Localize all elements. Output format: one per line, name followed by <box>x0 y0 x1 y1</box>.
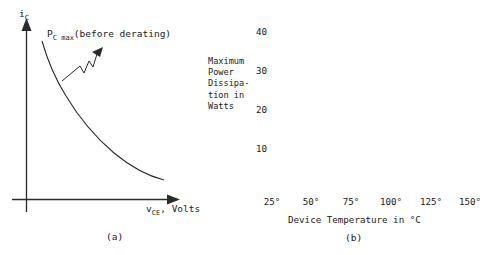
panel-a-annotation-sub: C max <box>53 33 74 42</box>
panel-b-x-axis-label: Device Temperature in °C <box>288 214 421 225</box>
panel-b-y-axis-label: MaximumPowerDissipa-tion inWatts <box>208 56 249 112</box>
panel-a-annotation-pointer-line <box>62 54 97 81</box>
panel-b-y-axis-label-line-5: Watts <box>208 101 249 112</box>
panel-a-x-axis-label-sub: CE <box>152 208 160 217</box>
panel-b-y-tick-label-40: 40 <box>249 26 267 37</box>
panel-a-x-axis-label: vCE, Volts <box>146 203 200 217</box>
panel-b-x-tick-label-150: 150° <box>453 196 487 207</box>
panel-a-collector-characteristic: iC vCE, Volts PC max(before derating) (a… <box>0 0 251 255</box>
panel-a-power-limit-curve <box>42 41 164 180</box>
panel-b-caption: (b) <box>345 232 362 244</box>
panel-b-x-tick-label-125: 125° <box>414 196 448 207</box>
panel-b-y-axis-label-line-1: Maximum <box>208 56 249 67</box>
panel-b-y-axis-label-line-2: Power <box>208 67 249 78</box>
panel-a-annotation-arrowhead <box>92 47 103 57</box>
panel-b-x-tick-label-25: 25° <box>255 196 289 207</box>
figure-root: iC vCE, Volts PC max(before derating) (a… <box>0 0 502 255</box>
panel-b-y-tick-label-10: 10 <box>249 143 267 154</box>
panel-b-y-tick-label-30: 30 <box>249 65 267 76</box>
panel-b-x-tick-label-50: 50° <box>294 196 328 207</box>
panel-b-x-tick-label-100: 100° <box>374 196 408 207</box>
panel-b-y-axis-label-line-3: Dissipa- <box>208 78 249 89</box>
panel-a-y-axis-label-sub: C <box>25 13 29 22</box>
panel-a-annotation-tail: (before derating) <box>74 28 171 39</box>
panel-a-annotation-label: PC max(before derating) <box>47 28 171 42</box>
panel-b-y-axis-label-line-4: tion in <box>208 90 249 101</box>
panel-a-x-axis-label-tail: , Volts <box>160 203 200 214</box>
panel-b-x-tick-label-75: 75° <box>334 196 368 207</box>
panel-b-y-tick-label-20: 20 <box>249 104 267 115</box>
panel-a-caption: (a) <box>106 231 123 243</box>
panel-a-y-axis-label: iC <box>19 8 29 22</box>
